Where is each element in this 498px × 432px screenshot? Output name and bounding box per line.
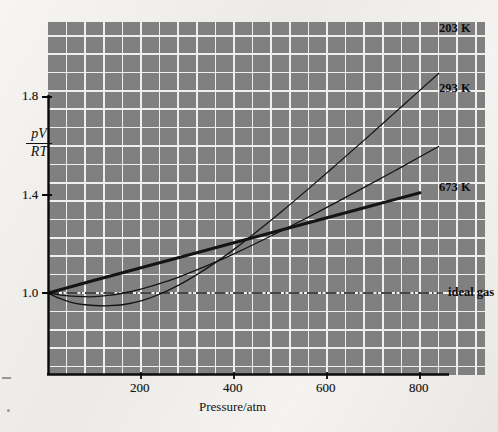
scan-artifact-dot bbox=[7, 409, 10, 412]
y-tick-label-1-8: 1.8 bbox=[22, 89, 38, 102]
figure-container: 1.8 1.4 1.0 pV RT 200 400 600 800 Pressu… bbox=[0, 0, 498, 432]
y-axis-title-denominator: RT bbox=[19, 144, 59, 160]
y-tick-label-1-4: 1.4 bbox=[22, 188, 38, 201]
series-label-203k: 203 K bbox=[439, 22, 471, 35]
series-label-293k: 293 K bbox=[439, 82, 471, 95]
y-tick-label-1-0: 1.0 bbox=[22, 286, 38, 299]
scan-artifact-mark bbox=[2, 377, 11, 379]
series-label-ideal-gas: ideal gas bbox=[448, 286, 494, 299]
chart-plot bbox=[0, 0, 498, 432]
x-tick-label-600: 600 bbox=[316, 381, 336, 394]
x-tick-label-400: 400 bbox=[223, 381, 243, 394]
x-tick-label-800: 800 bbox=[409, 381, 429, 394]
y-axis-title: pV RT bbox=[19, 127, 59, 159]
x-tick-label-200: 200 bbox=[130, 381, 150, 394]
x-axis-title: Pressure/atm bbox=[199, 400, 266, 413]
series-label-673k: 673 K bbox=[439, 181, 471, 194]
y-axis-title-numerator: pV bbox=[19, 127, 59, 143]
